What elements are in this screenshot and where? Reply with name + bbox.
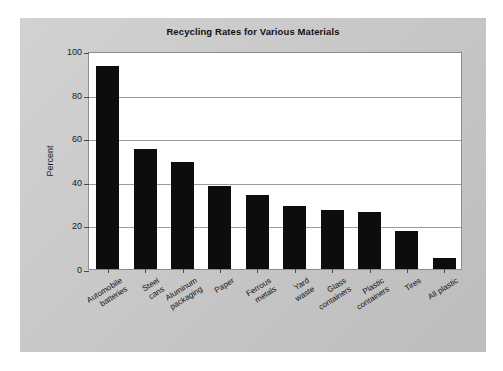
y-tick-label: 100 bbox=[52, 47, 82, 57]
gridline bbox=[89, 97, 461, 98]
x-tick-mark bbox=[108, 269, 109, 273]
x-tick-mark bbox=[295, 269, 296, 273]
x-tick-mark bbox=[220, 269, 221, 273]
bar bbox=[321, 210, 344, 269]
y-tick-mark bbox=[84, 271, 89, 272]
y-tick-label: 40 bbox=[52, 178, 82, 188]
plot-area bbox=[88, 52, 462, 270]
bar bbox=[96, 66, 119, 269]
y-tick-mark bbox=[84, 53, 89, 54]
bar bbox=[358, 212, 381, 269]
bar bbox=[433, 258, 456, 269]
y-tick-mark bbox=[84, 227, 89, 228]
bar bbox=[208, 186, 231, 269]
y-tick-mark bbox=[84, 140, 89, 141]
y-tick-label: 80 bbox=[52, 91, 82, 101]
y-tick-mark bbox=[84, 184, 89, 185]
y-axis-label: Percent bbox=[45, 145, 55, 176]
x-tick-mark bbox=[444, 269, 445, 273]
y-tick-label: 60 bbox=[52, 134, 82, 144]
y-tick-mark bbox=[84, 97, 89, 98]
x-tick-mark bbox=[407, 269, 408, 273]
bar bbox=[171, 162, 194, 269]
x-tick-mark bbox=[370, 269, 371, 273]
bar bbox=[246, 195, 269, 269]
y-tick-label: 0 bbox=[52, 265, 82, 275]
x-tick-mark bbox=[145, 269, 146, 273]
gridline bbox=[89, 140, 461, 141]
chart-figure: Recycling Rates for Various Materials Pe… bbox=[20, 18, 486, 352]
y-tick-label: 20 bbox=[52, 221, 82, 231]
x-tick-mark bbox=[257, 269, 258, 273]
bar bbox=[283, 206, 306, 269]
bar bbox=[395, 231, 418, 269]
x-tick-mark bbox=[183, 269, 184, 273]
x-tick-mark bbox=[332, 269, 333, 273]
bar bbox=[134, 149, 157, 269]
chart-title: Recycling Rates for Various Materials bbox=[20, 26, 486, 37]
